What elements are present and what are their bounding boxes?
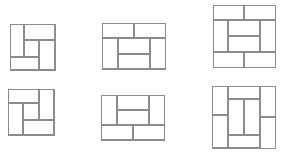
tile-rectangle	[228, 135, 260, 149]
tile-rectangle	[117, 110, 149, 126]
tiling-figure-2	[102, 23, 166, 70]
tile-rectangle	[244, 5, 276, 21]
tile-rectangle	[118, 54, 150, 70]
tile-rectangle	[244, 99, 260, 134]
tile-rectangle	[133, 125, 165, 140]
tile-rectangle	[10, 24, 24, 58]
tile-rectangle	[24, 24, 56, 41]
tile-rectangle	[134, 23, 166, 39]
tile-rectangle	[102, 23, 134, 39]
tile-rectangle	[212, 115, 228, 148]
tile-rectangle	[228, 36, 260, 52]
tile-rectangle	[228, 99, 244, 134]
tiling-figure-4	[8, 89, 55, 136]
tile-rectangle	[24, 40, 40, 57]
tile-rectangle	[228, 86, 260, 100]
tile-rectangle	[228, 20, 260, 36]
tiling-figure-6	[212, 86, 276, 149]
tile-rectangle	[23, 120, 54, 135]
tile-rectangle	[260, 20, 276, 52]
tile-rectangle	[149, 95, 165, 126]
tile-rectangle	[212, 86, 228, 116]
tile-rectangle	[150, 38, 166, 69]
tile-rectangle	[213, 5, 245, 21]
tile-rectangle	[101, 125, 133, 140]
tile-rectangle	[244, 52, 276, 68]
tile-rectangle	[118, 38, 150, 54]
tile-rectangle	[117, 95, 149, 110]
tile-rectangle	[10, 57, 40, 70]
tile-rectangle	[260, 117, 276, 149]
tile-rectangle	[213, 52, 245, 68]
tile-rectangle	[260, 86, 276, 118]
tile-rectangle	[101, 95, 117, 126]
tile-rectangle	[8, 103, 24, 136]
tile-rectangle	[39, 89, 55, 121]
tile-rectangle	[8, 89, 39, 103]
tiling-figure-1	[10, 24, 56, 71]
tile-rectangle	[39, 40, 55, 70]
tile-rectangle	[102, 38, 118, 69]
tiling-figure-5	[101, 95, 165, 141]
tile-rectangle	[213, 20, 229, 52]
tiling-figure-3	[213, 5, 276, 68]
tile-rectangle	[23, 103, 38, 121]
